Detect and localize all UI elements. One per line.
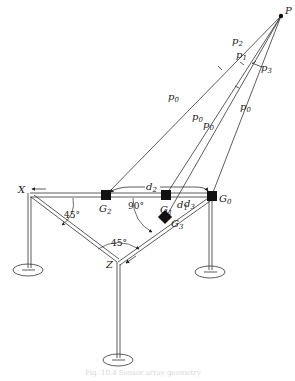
sensor-g1 — [161, 190, 171, 200]
ray-label-p0-a: p0 — [168, 91, 179, 104]
angle-left-label: 45° — [64, 210, 80, 220]
sensor-g0-label: G0 — [219, 193, 232, 206]
angle-right-label: 90° — [128, 201, 144, 211]
ray-label-p3: p3 — [261, 62, 272, 75]
x-axis-label: X — [17, 184, 26, 195]
ray-label-p0-b: p0 — [192, 111, 203, 124]
frame — [28, 193, 213, 358]
point-p — [279, 14, 283, 18]
sensor-g2 — [101, 190, 111, 200]
angle-bottom-label: 45° — [111, 238, 127, 248]
sensor-array-diagram: P p2 p1 p3 p0 p0 p0 p0 X Z — [0, 0, 295, 381]
point-p-label: P — [284, 5, 292, 16]
feet — [13, 264, 225, 366]
ray-label-p2: p2 — [232, 35, 243, 48]
sensor-g3-label: G3 — [171, 218, 184, 231]
z-axis-label: Z — [105, 259, 114, 270]
sensor-g2-label: G2 — [99, 203, 112, 216]
distance-d2-label: d2 — [146, 181, 157, 194]
d2-leader — [110, 187, 145, 192]
figure-caption: Fig. 10.4 Sensor array geometry — [85, 369, 201, 377]
ray-label-p0-c: p0 — [203, 119, 214, 132]
ray-to-g1 — [166, 16, 281, 195]
ray-label-p0-d: p0 — [240, 101, 251, 114]
sensor-g0 — [207, 191, 217, 201]
